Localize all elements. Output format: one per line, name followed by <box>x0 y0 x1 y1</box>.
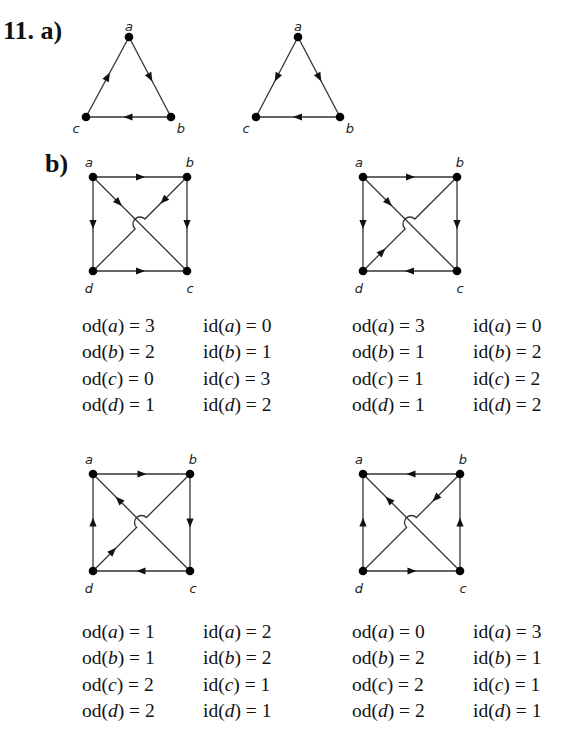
vertex-b <box>186 470 195 479</box>
out-degree-c: od(c) = 1 <box>352 366 424 392</box>
vertex-label-b: b <box>189 452 197 467</box>
part-b-graph-4: abcd <box>355 452 467 596</box>
arrowhead-icon <box>275 72 282 82</box>
out-degree-d: od(d) = 1 <box>352 392 425 418</box>
vertex-label-c: c <box>72 121 79 136</box>
in-degree-d: id(d) = 2 <box>473 392 541 418</box>
part-b-graph-2: abcd <box>355 155 464 296</box>
out-degree-a: od(a) = 1 <box>82 619 155 645</box>
in-degree-c: id(c) = 2 <box>473 366 540 392</box>
vertex-label-c: c <box>189 581 196 596</box>
in-degree-c: id(c) = 3 <box>203 366 270 392</box>
arrowhead-icon <box>137 567 146 574</box>
out-degree-d: od(d) = 2 <box>352 698 425 724</box>
arrowhead-icon <box>408 567 417 574</box>
vertex-b <box>456 470 465 479</box>
in-degree-a: id(a) = 0 <box>473 313 541 339</box>
arrowhead-icon <box>314 72 321 82</box>
part-b-graph-1: abcd <box>85 155 194 296</box>
vertex-a <box>89 173 98 182</box>
out-degree-b: od(b) = 2 <box>82 339 155 365</box>
vertex-c <box>183 267 192 276</box>
vertex-label-c: c <box>186 281 193 296</box>
vertex-label-b: b <box>186 155 194 170</box>
vertex-d <box>89 267 98 276</box>
out-degree-c: od(c) = 2 <box>352 672 424 698</box>
vertex-c <box>456 567 465 576</box>
vertex-label-d: d <box>355 281 364 296</box>
vertex-a <box>89 470 98 479</box>
vertex-label-a: a <box>355 155 363 170</box>
in-degree-b: id(b) = 1 <box>203 339 271 365</box>
vertex-label-a: a <box>355 452 363 467</box>
vertex-b <box>167 113 176 122</box>
part-b-graph-3: abcd <box>85 452 197 596</box>
arrowhead-icon <box>406 173 415 180</box>
arrowhead-icon <box>293 113 302 120</box>
vertex-label-c: c <box>459 581 466 596</box>
in-degree-c: id(c) = 1 <box>473 672 540 698</box>
arrowhead-icon <box>183 220 190 229</box>
arrowhead-icon <box>405 267 414 274</box>
vertex-b <box>183 173 192 182</box>
arrowhead-icon <box>124 113 133 120</box>
arrowhead-icon <box>407 470 416 477</box>
part-a-graph-1: abc <box>72 19 185 136</box>
vertex-label-b: b <box>456 155 464 170</box>
in-degree-b: id(b) = 2 <box>473 339 541 365</box>
out-degree-a: od(a) = 3 <box>82 313 155 339</box>
in-degree-a: id(a) = 3 <box>473 619 541 645</box>
arrowhead-icon <box>186 519 193 528</box>
vertex-c <box>82 113 91 122</box>
vertex-b <box>336 113 345 122</box>
out-degree-c: od(c) = 2 <box>82 672 154 698</box>
arrowhead-icon <box>89 518 96 527</box>
arrowhead-icon <box>102 73 109 83</box>
vertex-d <box>89 567 98 576</box>
vertex-label-b: b <box>459 452 467 467</box>
in-degree-d: id(d) = 1 <box>203 698 271 724</box>
arrowhead-icon <box>136 173 145 180</box>
vertex-a <box>359 470 368 479</box>
out-degree-c: od(c) = 0 <box>82 366 154 392</box>
vertex-label-b: b <box>177 121 185 136</box>
vertex-label-d: d <box>85 281 94 296</box>
vertex-label-d: d <box>85 581 94 596</box>
vertex-label-a: a <box>125 19 133 34</box>
arrowhead-icon <box>359 518 366 527</box>
out-degree-a: od(a) = 3 <box>352 313 425 339</box>
in-degree-a: id(a) = 0 <box>203 313 271 339</box>
in-degree-c: id(c) = 1 <box>203 672 270 698</box>
in-degree-d: id(d) = 2 <box>203 392 271 418</box>
in-degree-a: id(a) = 2 <box>203 619 271 645</box>
vertex-c <box>186 567 195 576</box>
in-degree-b: id(b) = 1 <box>473 645 541 671</box>
vertex-label-c: c <box>242 121 249 136</box>
arrowhead-icon <box>453 220 460 229</box>
vertex-d <box>359 267 368 276</box>
out-degree-d: od(d) = 2 <box>82 698 155 724</box>
vertex-c <box>453 267 462 276</box>
vertex-c <box>252 113 261 122</box>
in-degree-b: id(b) = 2 <box>203 645 271 671</box>
vertex-label-a: a <box>85 155 93 170</box>
part-a-graph-2: abc <box>242 19 354 136</box>
vertex-label-c: c <box>456 281 463 296</box>
vertex-label-b: b <box>346 121 354 136</box>
vertex-label-d: d <box>355 581 364 596</box>
vertex-b <box>453 173 462 182</box>
vertex-label-a: a <box>294 19 302 34</box>
arrowhead-icon <box>136 267 145 274</box>
arrowhead-icon <box>456 518 463 527</box>
in-degree-d: id(d) = 1 <box>473 698 541 724</box>
out-degree-b: od(b) = 1 <box>82 645 155 671</box>
out-degree-d: od(d) = 1 <box>82 392 155 418</box>
arrowhead-icon <box>138 470 147 477</box>
vertex-a <box>359 173 368 182</box>
vertex-d <box>359 567 368 576</box>
vertex-label-a: a <box>85 452 93 467</box>
out-degree-b: od(b) = 2 <box>352 645 425 671</box>
out-degree-a: od(a) = 0 <box>352 619 425 645</box>
arrowhead-icon <box>89 220 96 229</box>
arrowhead-icon <box>145 72 152 82</box>
